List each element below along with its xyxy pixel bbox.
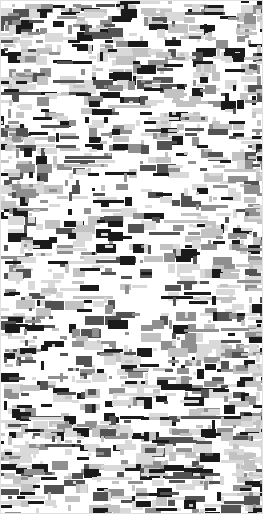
texture-canvas-root — [0, 0, 263, 514]
noise-field-canvas — [0, 0, 263, 514]
